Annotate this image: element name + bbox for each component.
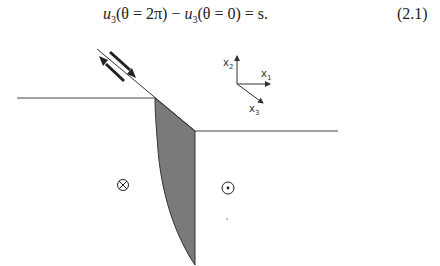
axis-label-x3: x3: [249, 103, 259, 117]
fault-wedge: [155, 98, 195, 265]
speck: [226, 218, 228, 220]
fault-line: [97, 49, 195, 131]
out-of-page-icon: [222, 182, 234, 194]
coordinate-axes: [237, 56, 270, 103]
axis-label-x1: x1: [261, 68, 271, 82]
fault-diagram: x2 x1 x3: [0, 0, 440, 266]
axis-label-x2: x2: [223, 57, 233, 71]
into-page-icon: [118, 180, 129, 191]
